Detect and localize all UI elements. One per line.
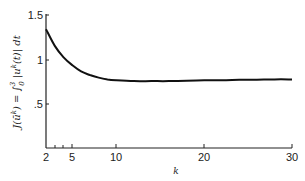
svg-text:2: 2 (43, 151, 49, 163)
x-axis-label: k (173, 166, 178, 176)
y-tick-labels: 1.5 1 .5 (28, 9, 43, 110)
svg-text:10: 10 (110, 151, 122, 163)
line-chart: J(ūk) = ∫30 |uk(t)| dt 1.5 1 .5 2 5 10 2… (0, 0, 305, 181)
svg-text:1.5: 1.5 (28, 9, 43, 21)
y-axis-label: J(ūk) = ∫30 |uk(t)| dt (9, 34, 26, 130)
svg-text:1: 1 (37, 54, 43, 66)
svg-text:20: 20 (198, 151, 210, 163)
svg-text:.5: .5 (34, 98, 43, 110)
data-series-line (46, 29, 292, 81)
x-tick-labels: 2 5 10 20 30 (43, 151, 298, 163)
svg-text:J(ūk) = ∫30 |uk(t)| dt: J(ūk) = ∫30 |uk(t)| dt (9, 34, 26, 130)
svg-text:30: 30 (286, 151, 298, 163)
svg-text:5: 5 (69, 151, 75, 163)
